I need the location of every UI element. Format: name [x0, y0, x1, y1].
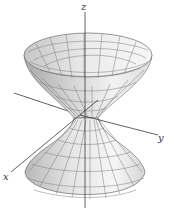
- hyperboloid-figure: z y x: [0, 0, 175, 218]
- upper-sheet: [24, 33, 152, 118]
- z-axis-label: z: [80, 1, 87, 12]
- y-axis-label: y: [157, 132, 164, 143]
- x-axis-label: x: [3, 171, 9, 182]
